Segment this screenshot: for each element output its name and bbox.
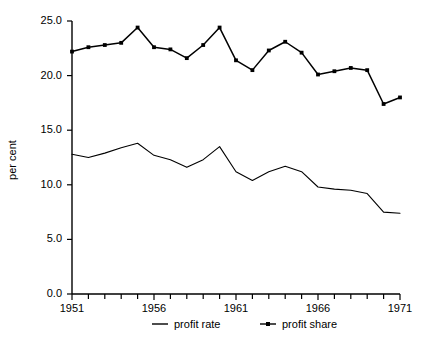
data-point-marker — [333, 69, 337, 73]
data-point-marker — [87, 45, 91, 49]
data-point-marker — [136, 26, 140, 30]
x-tick-label: 1971 — [370, 303, 430, 314]
legend-item-profit-rate[interactable]: profit rate — [152, 318, 220, 330]
data-point-marker — [267, 49, 271, 53]
data-point-marker — [300, 51, 304, 55]
data-point-marker — [201, 43, 205, 47]
series-line-profit-share — [72, 28, 400, 104]
data-point-marker — [218, 26, 222, 30]
data-point-marker — [251, 68, 255, 72]
data-point-marker — [283, 40, 287, 44]
x-axis-group — [72, 294, 400, 300]
y-tick-label: 20.0 — [0, 70, 62, 81]
series-line-profit-rate — [72, 143, 400, 213]
legend-label: profit share — [282, 318, 337, 330]
y-tick-label: 15.0 — [0, 124, 62, 135]
legend-label: profit rate — [174, 318, 220, 330]
data-point-marker — [70, 50, 74, 54]
data-point-marker — [316, 73, 320, 77]
chart-legend: profit rateprofit share — [152, 318, 337, 330]
y-tick-label: 5.0 — [0, 233, 62, 244]
data-point-marker — [365, 68, 369, 72]
data-point-marker — [382, 102, 386, 106]
x-tick-label: 1956 — [124, 303, 184, 314]
data-point-marker — [119, 41, 123, 45]
x-tick-label: 1961 — [206, 303, 266, 314]
y-tick-label: 10.0 — [0, 179, 62, 190]
x-tick-label: 1951 — [42, 303, 102, 314]
data-point-marker — [169, 47, 173, 51]
data-point-marker — [234, 58, 238, 62]
legend-item-profit-share[interactable]: profit share — [260, 318, 337, 330]
y-tick-label: 0.0 — [0, 288, 62, 299]
y-axis-label: per cent — [6, 140, 18, 180]
y-axis-ticks — [67, 21, 72, 294]
x-tick-label: 1966 — [288, 303, 348, 314]
data-point-marker — [103, 43, 107, 47]
legend-swatch-marker — [266, 322, 270, 326]
data-series-group — [70, 26, 402, 214]
line-chart: per cent profit rateprofit share — [0, 0, 436, 342]
data-point-marker — [152, 45, 156, 49]
data-point-marker — [349, 66, 353, 70]
data-point-marker — [185, 56, 189, 60]
y-axis-group — [67, 21, 72, 294]
data-point-marker — [398, 96, 402, 100]
y-tick-label: 25.0 — [0, 15, 62, 26]
chart-container: per cent profit rateprofit share 0.05.01… — [0, 0, 436, 342]
x-axis-ticks — [72, 294, 400, 300]
